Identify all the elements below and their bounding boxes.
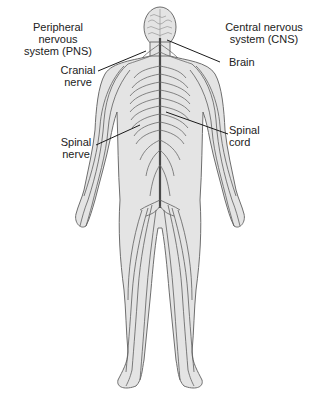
- spinal-nerve-label: Spinal nerve: [57, 136, 95, 160]
- cranial-nerve-label-line1: Cranial: [56, 64, 100, 76]
- pns-label-line2: system (PNS): [12, 45, 104, 57]
- spinal-cord-label-line2: cord: [229, 136, 260, 148]
- cns-label: Central nervous system (CNS): [222, 21, 306, 45]
- brain-label: Brain: [229, 56, 255, 68]
- brain-label-line1: Brain: [229, 56, 255, 68]
- spinal-cord-label-line1: Spinal: [229, 124, 260, 136]
- pns-label-line1: Peripheral nervous: [12, 21, 104, 45]
- cranial-nerve-label-line2: nerve: [56, 76, 100, 88]
- pns-label: Peripheral nervous system (PNS): [12, 21, 104, 57]
- cns-label-line2: system (CNS): [222, 33, 306, 45]
- spinal-cord-label: Spinal cord: [229, 124, 260, 148]
- cns-label-line1: Central nervous: [222, 21, 306, 33]
- nervous-system-figure: [0, 0, 317, 403]
- spinal-nerve-label-line2: nerve: [57, 148, 95, 160]
- spinal-nerve-label-line1: Spinal: [57, 136, 95, 148]
- cranial-nerve-label: Cranial nerve: [56, 64, 100, 88]
